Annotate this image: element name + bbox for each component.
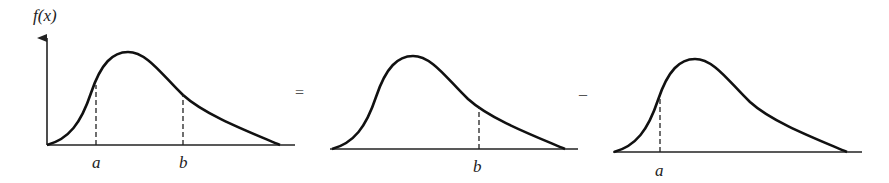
panel-cumulative-b: b (330, 56, 578, 176)
panel-cumulative-a: a (613, 59, 862, 180)
minus-sign: – (578, 85, 588, 102)
area-difference-diagram: f(x) a b = b – a (0, 0, 889, 183)
equals-sign: = (295, 84, 304, 101)
label-b: b (179, 153, 188, 172)
density-curve (332, 56, 565, 149)
label-a: a (92, 153, 101, 172)
panel-interval-area: f(x) a b (33, 6, 295, 172)
label-b: b (473, 157, 482, 176)
label-a: a (655, 161, 664, 180)
density-curve (47, 52, 280, 145)
density-curve (614, 59, 847, 152)
y-axis-label: f(x) (33, 6, 57, 25)
